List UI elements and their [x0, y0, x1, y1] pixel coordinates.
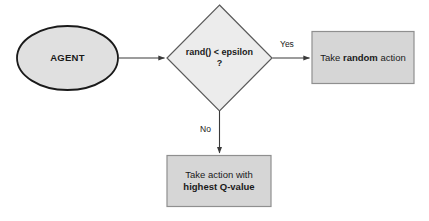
- node-decision-shape: [167, 5, 272, 111]
- flowchart-graphics: [0, 0, 429, 221]
- node-agent-shape: [17, 26, 118, 90]
- node-greedy-action-shape: [167, 156, 271, 207]
- node-random-action-shape: [312, 32, 414, 84]
- flowchart-canvas: AGENT rand() < epsilon ? Take random act…: [0, 0, 429, 221]
